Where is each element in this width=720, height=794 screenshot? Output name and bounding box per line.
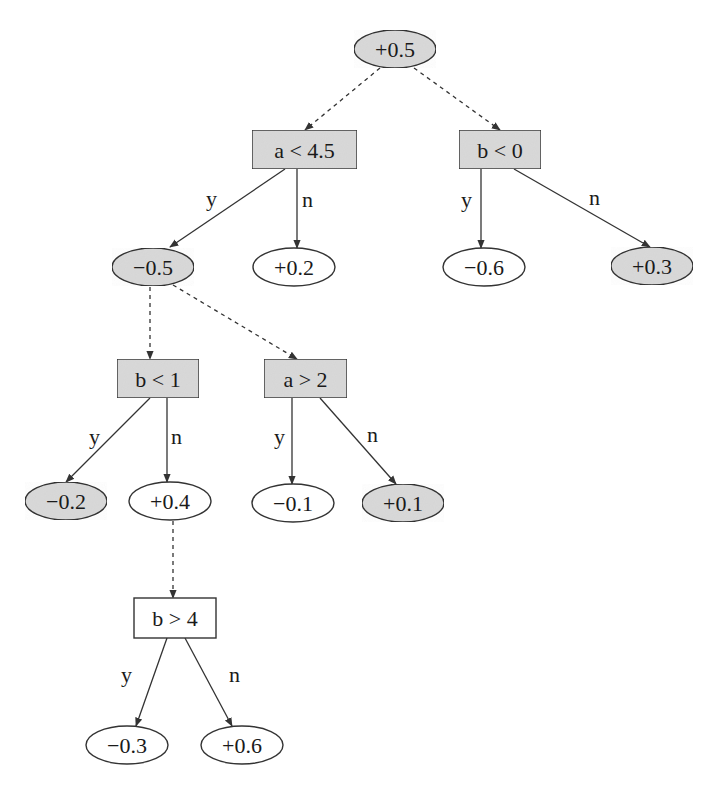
edge-label-no: n [589, 185, 600, 210]
solid-arrow [136, 638, 167, 726]
prediction-node-pred-p0.6: +0.6 [201, 726, 283, 764]
edge-root-to-split-a-lt-4.5 [305, 68, 380, 130]
solid-arrow [170, 169, 285, 247]
dashed-arrow [305, 68, 380, 130]
prediction-node-pred-p0.1: +0.1 [362, 484, 444, 522]
edge-label-yes: y [89, 424, 100, 449]
prediction-value: +0.4 [150, 489, 190, 514]
edge-label-yes: y [274, 424, 285, 449]
prediction-value: +0.3 [632, 254, 672, 279]
edge-label-yes: y [206, 186, 217, 211]
edge-label-no: n [367, 422, 378, 447]
prediction-node-pred-m0.1: −0.1 [252, 484, 334, 522]
edge-label-yes: y [461, 187, 472, 212]
prediction-node-pred-m0.2: −0.2 [25, 482, 107, 520]
prediction-value: +0.2 [274, 255, 314, 280]
solid-arrow [66, 398, 150, 482]
prediction-node-root: +0.5 [354, 30, 436, 68]
edge-split-b-lt-0-to-pred-p0.3: n [514, 169, 650, 247]
split-condition: a < 4.5 [274, 138, 335, 163]
edge-split-b-lt-1-to-pred-m0.2: y [66, 398, 150, 482]
nodes-layer: +0.5a < 4.5b < 0−0.5+0.2−0.6+0.3b < 1a >… [25, 30, 693, 764]
prediction-node-pred-p0.4: +0.4 [129, 482, 211, 520]
prediction-value: −0.5 [133, 255, 173, 280]
split-node-split-a-gt-2: a > 2 [264, 359, 347, 398]
edge-split-a-lt-4.5-to-pred-m0.5: y [170, 169, 285, 247]
prediction-value: −0.3 [107, 733, 147, 758]
split-condition: b < 0 [477, 138, 522, 163]
prediction-node-pred-m0.3: −0.3 [86, 726, 168, 764]
split-node-split-b-gt-4: b > 4 [134, 598, 216, 638]
edge-label-no: n [229, 662, 240, 687]
split-condition: b > 4 [152, 606, 197, 631]
edge-pred-m0.5-to-split-a-gt-2 [173, 285, 297, 359]
prediction-value: +0.1 [383, 491, 423, 516]
edge-label-yes: y [121, 662, 132, 687]
split-node-split-b-lt-0: b < 0 [459, 130, 541, 169]
decision-tree-diagram: ynynynynyn +0.5a < 4.5b < 0−0.5+0.2−0.6+… [0, 0, 720, 794]
prediction-value: −0.6 [464, 255, 504, 280]
prediction-node-pred-p0.3: +0.3 [611, 247, 693, 285]
edge-split-b-gt-4-to-pred-p0.6: n [185, 638, 240, 726]
split-condition: a > 2 [283, 367, 327, 392]
edge-split-b-lt-1-to-pred-p0.4: n [167, 398, 182, 482]
dashed-arrow [414, 68, 500, 130]
split-condition: b < 1 [135, 367, 180, 392]
edge-label-no: n [302, 187, 313, 212]
prediction-value: −0.2 [46, 489, 86, 514]
edge-split-b-gt-4-to-pred-m0.3: y [121, 638, 167, 726]
edge-split-a-gt-2-to-pred-m0.1: y [274, 398, 292, 484]
edge-split-b-lt-0-to-pred-m0.6: y [461, 169, 481, 248]
prediction-node-pred-m0.5: −0.5 [112, 248, 194, 286]
split-node-split-b-lt-1: b < 1 [117, 359, 199, 398]
edge-root-to-split-b-lt-0 [414, 68, 500, 130]
split-node-split-a-lt-4.5: a < 4.5 [252, 130, 357, 169]
prediction-node-pred-m0.6: −0.6 [443, 248, 525, 286]
dashed-arrow [173, 285, 297, 359]
prediction-value: +0.5 [375, 37, 415, 62]
prediction-node-pred-p0.2: +0.2 [253, 248, 335, 286]
solid-arrow [514, 169, 650, 247]
edge-split-a-lt-4.5-to-pred-p0.2: n [297, 169, 313, 248]
edge-split-a-gt-2-to-pred-p0.1: n [320, 398, 396, 484]
prediction-value: +0.6 [222, 733, 262, 758]
edge-label-no: n [171, 424, 182, 449]
solid-arrow [185, 638, 232, 726]
solid-arrow [320, 398, 396, 484]
prediction-value: −0.1 [273, 491, 313, 516]
